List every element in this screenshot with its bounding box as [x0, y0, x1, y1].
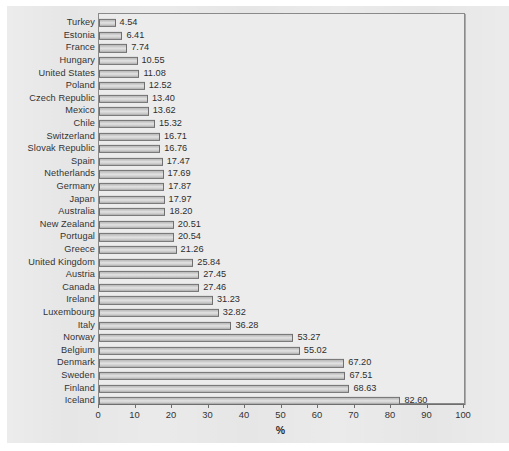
bar: [99, 347, 300, 355]
bar: [99, 183, 164, 191]
category-label: Luxembourg: [43, 308, 95, 317]
bar-value-label: 67.51: [349, 371, 372, 380]
bar-row: Norway53.27: [0, 332, 509, 345]
bar-value-label: 17.97: [169, 195, 192, 204]
bar-row: Chile15.32: [0, 118, 509, 131]
category-label: Poland: [66, 82, 95, 91]
bar: [99, 57, 138, 65]
bar-value-label: 32.82: [223, 308, 246, 317]
bar-value-label: 10.55: [142, 56, 165, 65]
bar: [99, 82, 145, 90]
bar-row: Sweden67.51: [0, 370, 509, 383]
bar-value-label: 27.45: [203, 271, 226, 280]
bar-rows: Turkey4.54Estonia6.41France7.74Hungary10…: [0, 13, 509, 404]
category-label: Portugal: [60, 233, 95, 242]
bar-row: Austria27.45: [0, 269, 509, 282]
bar: [99, 145, 160, 153]
bar-row: Hungary10.55: [0, 55, 509, 68]
bar-value-label: 11.08: [143, 69, 165, 78]
bar-row: Spain17.47: [0, 156, 509, 169]
category-label: Switzerland: [46, 132, 95, 141]
category-label: Iceland: [65, 397, 95, 406]
bar: [99, 372, 345, 380]
bar-row: Estonia6.41: [0, 30, 509, 43]
x-axis-title-text: %: [276, 424, 285, 436]
bar-value-label: 67.20: [348, 359, 371, 368]
bar-row: Ireland31.23: [0, 294, 509, 307]
x-axis-tick: [281, 404, 282, 408]
category-label: Finland: [64, 384, 95, 393]
bar: [99, 221, 174, 229]
bar-row: Mexico13.62: [0, 105, 509, 118]
bar-value-label: 27.46: [203, 283, 226, 292]
bar-value-label: 17.47: [167, 157, 190, 166]
x-axis-tick: [98, 404, 99, 408]
bar-row: Portugal20.54: [0, 231, 509, 244]
bar-value-label: 12.52: [149, 82, 172, 91]
bar-value-label: 25.84: [197, 258, 220, 267]
bar-row: Australia18.20: [0, 206, 509, 219]
bar-row: Denmark67.20: [0, 357, 509, 370]
bar-value-label: 4.54: [120, 19, 138, 28]
category-label: Denmark: [57, 359, 95, 368]
bar-row: Turkey4.54: [0, 17, 509, 30]
bar-row: Belgium55.02: [0, 345, 509, 358]
x-axis-tick-label: 30: [202, 410, 212, 419]
x-axis-tick: [208, 404, 209, 408]
category-label: Estonia: [64, 31, 95, 40]
bar: [99, 208, 165, 216]
bar-row: Netherlands17.69: [0, 168, 509, 181]
category-label: Greece: [64, 245, 95, 254]
category-label: Spain: [71, 157, 95, 166]
bar-row: Greece21.26: [0, 244, 509, 257]
bar-value-label: 17.87: [168, 182, 191, 191]
category-label: France: [66, 44, 95, 53]
bar-value-label: 68.63: [353, 384, 376, 393]
bar-value-label: 18.20: [169, 208, 192, 217]
category-label: Norway: [63, 334, 95, 343]
x-axis-tick-label: 80: [385, 410, 395, 419]
category-label: Austria: [66, 271, 95, 280]
bar-row: New Zealand20.51: [0, 219, 509, 232]
category-label: Hungary: [60, 56, 95, 65]
bar: [99, 133, 160, 141]
category-label: Italy: [78, 321, 95, 330]
category-label: Netherlands: [44, 170, 95, 179]
bar-value-label: 20.51: [178, 220, 201, 229]
bar: [99, 32, 122, 40]
category-label: United States: [39, 69, 95, 78]
bar-row: Switzerland16.71: [0, 130, 509, 143]
bar-value-label: 16.71: [164, 132, 187, 141]
bar-row: Japan17.97: [0, 193, 509, 206]
bar-row: Iceland82.60: [0, 395, 509, 408]
category-label: Turkey: [67, 19, 95, 28]
bar: [99, 284, 199, 292]
bar: [99, 271, 199, 279]
category-label: Slovak Republic: [28, 145, 95, 154]
bar-value-label: 13.40: [152, 94, 175, 103]
x-axis-tick-label: 90: [421, 410, 431, 419]
x-axis-tick-label: 0: [95, 410, 100, 419]
x-axis-tick: [244, 404, 245, 408]
category-label: Belgium: [61, 346, 95, 355]
bar-value-label: 55.02: [304, 346, 327, 355]
bar: [99, 259, 193, 267]
x-axis-tick-label: 40: [239, 410, 249, 419]
x-axis-tick: [317, 404, 318, 408]
bar-value-label: 21.26: [181, 245, 204, 254]
category-label: Chile: [74, 119, 95, 128]
bar: [99, 385, 349, 393]
x-axis-tick: [390, 404, 391, 408]
x-axis-tick: [171, 404, 172, 408]
bar: [99, 246, 177, 254]
x-axis-tick: [427, 404, 428, 408]
x-axis: 0102030405060708090100: [98, 404, 465, 405]
bar-value-label: 36.28: [235, 321, 258, 330]
category-label: Mexico: [65, 107, 95, 116]
bar: [99, 19, 116, 27]
bar-value-label: 6.41: [126, 31, 144, 40]
bar-row: Czech Republic13.40: [0, 93, 509, 106]
x-axis-tick: [463, 404, 464, 408]
x-axis-tick-label: 100: [455, 410, 471, 419]
bar: [99, 309, 219, 317]
